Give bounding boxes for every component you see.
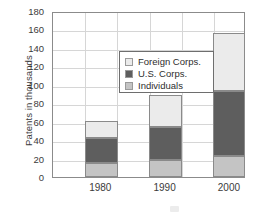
bar-segment-foreign-corps-1990 — [149, 95, 182, 127]
y-axis-tick-120: 120 — [28, 63, 44, 73]
bar-segment-us-corps-2000 — [213, 91, 245, 156]
legend-label-foreign-corps: Foreign Corps. — [138, 57, 201, 67]
x-axis-tick-1980: 1980 — [89, 182, 111, 193]
legend-item-us-corps: U.S. Corps. — [125, 68, 208, 79]
bar-1990 — [149, 95, 182, 177]
legend-item-foreign-corps: Foreign Corps. — [125, 56, 208, 67]
legend-label-us-corps: U.S. Corps. — [138, 69, 187, 79]
bar-segment-individuals-1990 — [149, 160, 182, 177]
legend-item-individuals: Individuals — [125, 80, 208, 91]
x-axis-tick-2000: 2000 — [218, 182, 240, 193]
gridline-vertical — [182, 13, 183, 177]
y-axis-tick-40: 40 — [33, 136, 44, 146]
bar-segment-foreign-corps-2000 — [213, 33, 245, 91]
y-axis-tick-140: 140 — [28, 44, 44, 54]
bar-segment-us-corps-1980 — [85, 138, 118, 163]
bar-segment-individuals-2000 — [213, 156, 245, 177]
bar-2000 — [213, 33, 245, 177]
y-axis-tick-80: 80 — [33, 99, 44, 109]
y-axis-tick-0: 0 — [39, 173, 44, 183]
legend-swatch-icon-us-corps — [125, 70, 133, 78]
page-artifact — [170, 206, 179, 212]
y-axis-tick-160: 160 — [28, 26, 44, 36]
y-axis-tick-100: 100 — [28, 81, 44, 91]
legend-swatch-icon-individuals — [125, 82, 133, 90]
y-axis-tick-60: 60 — [33, 118, 44, 128]
legend-label-individuals: Individuals — [138, 81, 183, 91]
y-axis-tick-20: 20 — [33, 155, 44, 165]
y-axis-tick-labels: 020406080100120140160180 — [0, 12, 48, 178]
bar-segment-us-corps-1990 — [149, 127, 182, 160]
patents-stacked-bar-chart: Patents in thousands 0204060801001201401… — [0, 0, 268, 216]
bar-segment-individuals-1980 — [85, 163, 118, 177]
plot-area: Foreign Corps. U.S. Corps. Individuals — [52, 12, 245, 178]
chart-legend: Foreign Corps. U.S. Corps. Individuals — [119, 51, 214, 93]
bar-segment-foreign-corps-1980 — [85, 121, 118, 139]
bar-1980 — [85, 121, 118, 177]
y-axis-tick-180: 180 — [28, 7, 44, 17]
x-axis-tick-labels: 198019902000 — [52, 182, 245, 198]
legend-swatch-icon-foreign-corps — [125, 58, 133, 66]
x-axis-tick-1990: 1990 — [153, 182, 175, 193]
